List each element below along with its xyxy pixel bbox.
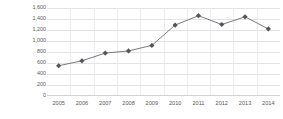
y-axis-tick-label: 800 [24,49,46,54]
data-point-marker [126,48,131,53]
data-point-marker [266,26,271,31]
series-line [59,16,269,66]
data-point-marker [103,51,108,56]
series-markers [56,13,271,68]
data-point-marker [242,14,247,19]
plot-area [47,8,280,96]
data-point-marker [219,22,224,27]
y-axis-tick-labels: 02004006008001,0001,2001,4001,600 [24,8,46,96]
y-axis-tick-label: 0 [24,93,46,98]
y-axis-tick-label: 600 [24,60,46,65]
y-axis-tick-label: 1,200 [24,27,46,32]
line-chart-figure: HOUSING AREA (MILLION SQUARE METERS) 020… [0,0,283,119]
x-axis-tick-labels: 2005200620072008200920102011201220132014 [47,99,280,111]
y-axis-tick-label: 1,600 [24,5,46,10]
data-series-housing-area [47,8,280,96]
y-axis-tick-label: 1,400 [24,16,46,21]
y-axis-tick-label: 400 [24,71,46,76]
data-point-marker [79,58,84,63]
data-point-marker [196,13,201,18]
x-axis-tick-label: 2014 [254,99,282,107]
data-point-marker [56,63,61,68]
y-axis-tick-label: 200 [24,82,46,87]
y-axis-tick-label: 1,000 [24,38,46,43]
